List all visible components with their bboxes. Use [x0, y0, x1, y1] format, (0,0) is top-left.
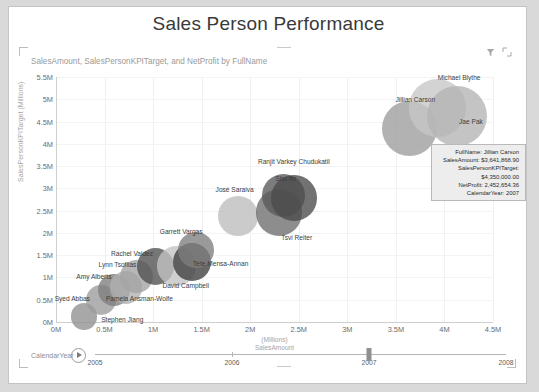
slider-label: CalendarYear	[31, 352, 74, 359]
bubble-label: José Saraiva	[216, 186, 254, 193]
y-axis-tick-label: 5M	[43, 95, 53, 104]
x-axis-tick-label: 0M	[51, 325, 61, 334]
tooltip-key: CalendarYear:	[467, 190, 506, 196]
chart-subtitle: SalesAmount, SalesPersonKPITarget, and N…	[31, 57, 267, 66]
slider-tick-label[interactable]: 2006	[224, 359, 239, 366]
card-corner-top-left	[19, 47, 28, 56]
tooltip-value: $3,641,868.90	[481, 157, 519, 163]
focus-mode-icon[interactable]	[502, 47, 512, 57]
bubble-label: Syed Abbas	[55, 295, 90, 302]
y-axis-tick-label: 4.5M	[37, 117, 53, 126]
gridline-horizontal	[56, 166, 493, 167]
x-axis-tick-label: 4.5M	[485, 325, 501, 334]
filter-icon[interactable]	[486, 48, 495, 57]
tooltip-key: FullName:	[455, 149, 483, 155]
page-title: Sales Person Performance	[9, 13, 528, 35]
tooltip-row: FullName: Jillian Carson	[438, 148, 519, 156]
tooltip-row: CalendarYear: 2007	[438, 189, 519, 197]
bubble-label: Garrett Vargas	[160, 228, 203, 235]
bubble-label: Tsvi Reiter	[281, 234, 312, 241]
slider-tick-label[interactable]: 2005	[87, 359, 102, 366]
card-edge-top	[277, 47, 291, 48]
tooltip-key: SalesPersonKPITarget:	[458, 165, 519, 171]
bubble-label: Jillian Carson	[395, 96, 435, 103]
x-axis-tick-label: 0.5M	[96, 325, 112, 334]
tooltip-value: Jillian Carson	[484, 149, 519, 155]
bubble-label: Rachel Valdez	[111, 250, 153, 257]
x-axis-tick-label: 2.5M	[291, 325, 307, 334]
x-axis-tick-label: 3M	[342, 325, 352, 334]
bubble-label: Michael Blythe	[438, 74, 481, 81]
bubble-label: Stephen Jiang	[101, 316, 143, 323]
y-axis-tick-label: 3.5M	[37, 162, 53, 171]
tooltip-row: SalesPersonKPITarget: $4,350,000.00	[438, 164, 519, 180]
bubble-data-point[interactable]	[427, 86, 487, 146]
y-axis-tick-label: 5.5M	[37, 73, 53, 82]
y-axis-tick-label: 3M	[43, 184, 53, 193]
bubble-chart-plot-area[interactable]: Stephen JiangSyed AbbasAmy AlbertsPamela…	[56, 77, 493, 322]
bubble-label: Pamela Ansman-Wolfe	[106, 295, 173, 302]
tooltip-value: $4,350,000.00	[481, 174, 519, 180]
bubble-label: Lynn Tsoflias	[99, 261, 137, 268]
visual-header-icons	[486, 47, 512, 57]
bubble-label: Shu Ito	[275, 175, 296, 182]
gridline-vertical	[153, 77, 154, 322]
bubble-label: Jae Pak	[459, 118, 483, 125]
slider-handle[interactable]	[367, 348, 372, 361]
x-axis-tick-label: 4M	[439, 325, 449, 334]
slider-tick-label[interactable]: 2008	[498, 359, 513, 366]
tooltip-value: 2007	[506, 190, 519, 196]
tooltip-key: NetProfit:	[458, 182, 484, 188]
slider-track[interactable]	[95, 354, 506, 355]
play-button[interactable]	[71, 348, 86, 363]
gridline-vertical	[347, 77, 348, 322]
tooltip-value: 2,452,654.36	[485, 182, 519, 188]
bubble-label: David Campbell	[162, 282, 209, 289]
x-axis-tick-label: 3.5M	[388, 325, 404, 334]
y-axis-line	[56, 77, 57, 322]
calendar-year-slider[interactable]: CalendarYear 2005200620072008	[9, 347, 528, 381]
y-axis-ticks: 0M0.5M1M1.5M2M2.5M3M3.5M4M4.5M5M5.5M	[9, 77, 53, 322]
x-axis-tick-label: 1M	[148, 325, 158, 334]
report-window: Sales Person Performance SalesAmount, Sa…	[8, 6, 527, 384]
data-point-tooltip: FullName: Jillian CarsonSalesAmount: $3,…	[431, 144, 526, 201]
tooltip-row: SalesAmount: $3,641,868.90	[438, 156, 519, 164]
y-axis-tick-label: 2M	[43, 228, 53, 237]
y-axis-tick-label: 1M	[43, 273, 53, 282]
bubble-data-point[interactable]	[218, 196, 258, 236]
y-axis-tick-label: 0.5M	[37, 295, 53, 304]
y-axis-tick-label: 2.5M	[37, 206, 53, 215]
y-axis-tick-label: 4M	[43, 139, 53, 148]
bubble-label: Ranjit Varkey Chudukatil	[258, 158, 330, 165]
tooltip-row: NetProfit: 2,452,654.36	[438, 181, 519, 189]
bubble-label: Tete Mensa-Annan	[193, 260, 248, 267]
y-axis-tick-label: 1.5M	[37, 251, 53, 260]
slider-tick	[232, 352, 233, 357]
x-axis-tick-label: 2M	[245, 325, 255, 334]
tooltip-key: SalesAmount:	[443, 157, 481, 163]
play-triangle-icon	[77, 352, 82, 358]
x-axis-tick-label: 1.5M	[193, 325, 209, 334]
bubble-label: Amy Alberts	[76, 273, 111, 280]
gridline-horizontal	[56, 77, 493, 78]
